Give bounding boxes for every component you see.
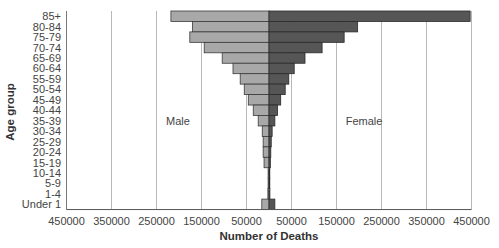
male-bar <box>263 136 269 146</box>
female-bar <box>269 199 275 209</box>
female-bar <box>269 21 358 31</box>
female-bar <box>269 189 270 199</box>
female-bar <box>269 147 271 157</box>
x-axis-title: Number of Deaths <box>219 230 318 242</box>
male-bar <box>204 42 269 52</box>
male-bar <box>258 116 269 126</box>
x-tick-label: 250000 <box>138 215 175 227</box>
female-bar <box>269 84 285 94</box>
y-tick-label: Under 1 <box>22 198 61 210</box>
male-bar <box>253 105 269 115</box>
male-bar <box>262 199 269 209</box>
male-label: Male <box>166 115 190 127</box>
male-bar <box>248 95 269 105</box>
male-bar <box>222 53 269 63</box>
population-pyramid-chart: 85+80-8475-7970-7465-6960-6455-5950-5445… <box>0 0 499 248</box>
female-bar <box>269 74 289 84</box>
x-tick-label: 150000 <box>183 215 220 227</box>
male-bar <box>263 147 269 157</box>
male-bar <box>233 63 269 73</box>
female-bar <box>269 53 305 63</box>
x-tick-label: 150000 <box>318 215 355 227</box>
female-bar <box>269 42 322 52</box>
female-bar <box>269 95 281 105</box>
female-bar <box>269 178 270 188</box>
x-tick-label: 350000 <box>93 215 130 227</box>
female-bar <box>269 136 271 146</box>
female-bar <box>269 116 275 126</box>
male-bar <box>240 74 269 84</box>
x-tick-label: 450000 <box>453 215 490 227</box>
x-tick-label: 250000 <box>363 215 400 227</box>
male-bar <box>244 84 269 94</box>
x-tick-label: 50000 <box>276 215 307 227</box>
female-bar <box>269 157 270 167</box>
male-bar <box>264 157 269 167</box>
female-bar <box>269 168 270 178</box>
y-tick-labels: 85+80-8475-7970-7465-6960-6455-5950-5445… <box>22 10 61 210</box>
female-bar <box>269 126 272 136</box>
x-tick-label: 350000 <box>408 215 445 227</box>
bars <box>171 11 470 210</box>
female-bar <box>269 63 294 73</box>
male-bar <box>262 126 269 136</box>
x-tick-labels: 4500003500002500001500005000050000150000… <box>48 215 490 227</box>
male-bar <box>171 11 269 21</box>
female-bar <box>269 105 278 115</box>
x-tick-label: 50000 <box>231 215 262 227</box>
female-label: Female <box>346 115 383 127</box>
x-tick-label: 450000 <box>48 215 85 227</box>
male-bar <box>190 32 269 42</box>
female-bar <box>269 32 344 42</box>
y-axis-title: Age group <box>4 83 16 141</box>
male-bar <box>193 21 270 31</box>
female-bar <box>269 11 470 21</box>
